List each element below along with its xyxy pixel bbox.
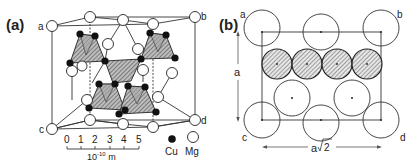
panel-b-label: (b)	[219, 16, 238, 33]
cu-legend-icon	[168, 135, 176, 143]
top-row-atoms	[244, 10, 399, 50]
legend-label-mg: Mg	[185, 146, 199, 157]
figure-canvas: (a) a b c d	[0, 0, 419, 167]
bottom-row-atoms	[244, 102, 399, 141]
vertical-dimension-label: a	[234, 66, 241, 78]
corner-label-c: c	[39, 124, 44, 135]
scale-tick-2: 2	[92, 134, 98, 145]
svg-text:2: 2	[324, 142, 330, 153]
scale-tick-3: 3	[107, 134, 113, 145]
scale-tick-0: 0	[64, 134, 70, 145]
middle-row-atoms	[274, 80, 370, 116]
corner-label-b: b	[201, 11, 207, 22]
panel-b: (b) a b c d	[219, 9, 406, 154]
mg-legend-icon	[188, 132, 199, 143]
panel-a-label: (a)	[6, 16, 24, 33]
corner-label-c: c	[242, 132, 247, 143]
mg-atom	[47, 21, 58, 32]
corner-label-a: a	[38, 21, 44, 32]
panel-a: (a) a b c d	[6, 11, 207, 162]
legend-label-cu: Cu	[165, 146, 178, 157]
scale-unit: 10-10 m	[87, 151, 116, 162]
horizontal-dimension	[262, 145, 382, 148]
corner-label-d: d	[400, 132, 406, 143]
corner-label-d: d	[201, 115, 207, 126]
corner-label-a: a	[240, 9, 246, 20]
scale-bar: 0 1 2 3 4 5 10-10 m	[64, 134, 142, 162]
scale-tick-4: 4	[121, 134, 127, 145]
scale-tick-5: 5	[136, 134, 142, 145]
svg-text:a: a	[311, 142, 318, 154]
legend: Cu Mg	[165, 132, 199, 158]
hatched-row-atoms	[262, 49, 382, 79]
scale-tick-1: 1	[78, 134, 84, 145]
corner-label-b: b	[397, 9, 403, 20]
